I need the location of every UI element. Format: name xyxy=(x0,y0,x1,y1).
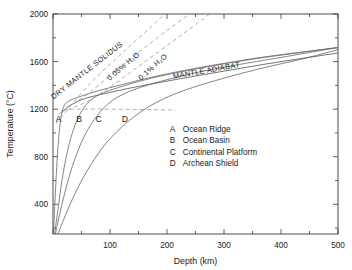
y-tick-label: 800 xyxy=(34,153,48,162)
curve-b xyxy=(53,48,338,246)
geotherm-marker-c: C xyxy=(95,114,101,124)
x-tick-label: 200 xyxy=(160,241,174,250)
x-tick-label: 500 xyxy=(331,241,345,250)
curve-0-1-h2o xyxy=(61,14,210,112)
legend-label-b: Ocean Basin xyxy=(183,136,230,145)
curve-a xyxy=(53,48,338,245)
x-tick-label: 300 xyxy=(217,241,231,250)
legend-label-a: Ocean Ridge xyxy=(183,125,231,134)
geotherm-marker-d: D xyxy=(122,114,128,124)
legend-key-c: C xyxy=(170,148,176,157)
curve-label: MANTLE ADIABAT xyxy=(172,60,240,81)
x-axis-title: Depth (km) xyxy=(174,256,218,266)
legend-key-a: A xyxy=(170,125,176,134)
legend-key-b: B xyxy=(170,136,176,145)
geotherm-marker-b: B xyxy=(76,114,82,124)
y-tick-label: 1600 xyxy=(30,58,49,67)
labels-layer: 100200300400500400800120016002000Depth (… xyxy=(5,10,345,266)
geotherm-chart: 100200300400500400800120016002000Depth (… xyxy=(0,0,352,270)
curve-wet-solidus-plateau xyxy=(58,109,176,115)
y-tick-label: 1200 xyxy=(30,105,49,114)
y-tick-label: 400 xyxy=(34,200,48,209)
legend-key-d: D xyxy=(170,159,176,168)
figure-container: 100200300400500400800120016002000Depth (… xyxy=(0,0,352,270)
legend-label-c: Continental Platform xyxy=(183,148,257,157)
y-tick-label: 2000 xyxy=(30,10,49,19)
geotherm-marker-a: A xyxy=(56,114,62,124)
x-tick-label: 100 xyxy=(103,241,117,250)
x-tick-label: 400 xyxy=(274,241,288,250)
y-axis-title: Temperature (°C) xyxy=(5,90,15,158)
legend-label-d: Archean Shield xyxy=(183,159,239,168)
